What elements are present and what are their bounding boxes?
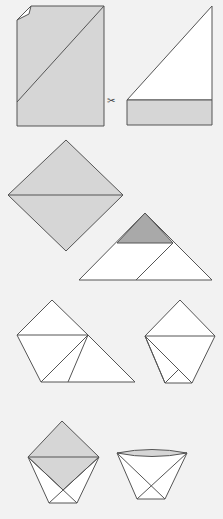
- step-6-fold-right: [145, 300, 215, 383]
- scissors-icon: ✂: [107, 95, 115, 106]
- step-3-diamond: [8, 140, 123, 251]
- step-5-fold-left: [17, 300, 135, 382]
- step-8-open-cup: [117, 450, 187, 500]
- step-4-triangle: [79, 213, 212, 280]
- folding-diagram: ✂: [0, 0, 223, 519]
- step-1-sheet: [17, 6, 104, 126]
- step-7-fold-flaps: [28, 421, 99, 503]
- step-2-cut: [127, 6, 212, 125]
